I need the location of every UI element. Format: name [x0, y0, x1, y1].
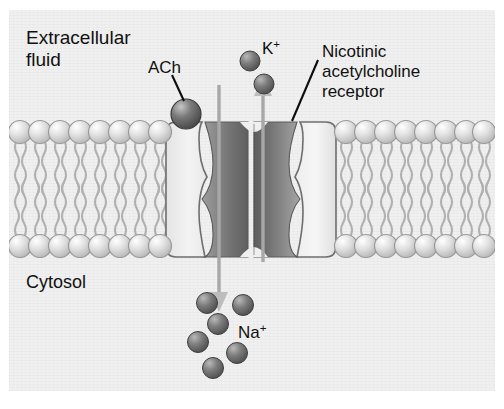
label-sodium-ion: Na+	[238, 322, 266, 343]
label-potassium-charge: +	[273, 38, 280, 50]
label-cytosol: Cytosol	[26, 272, 86, 293]
label-receptor: Nicotinic acetylcholine receptor	[322, 42, 420, 102]
lower-leaflet-tails	[15, 182, 490, 237]
label-potassium-ion: K+	[262, 38, 280, 59]
acetylcholine-molecule	[171, 99, 201, 129]
ach-leader-line	[172, 75, 184, 101]
label-potassium-symbol: K	[262, 39, 273, 58]
label-sodium-charge: +	[260, 322, 267, 334]
upper-leaflet-tails	[15, 140, 490, 195]
label-extracellular-fluid: Extracellular fluid	[26, 27, 131, 72]
label-sodium-symbol: Na	[238, 323, 260, 342]
nicotinic-acetylcholine-receptor	[166, 122, 336, 257]
receptor-leader-line	[292, 60, 318, 121]
label-ach: ACh	[148, 58, 181, 78]
figure-canvas: Extracellular fluid ACh K+ Nicotinic ace…	[0, 0, 504, 409]
